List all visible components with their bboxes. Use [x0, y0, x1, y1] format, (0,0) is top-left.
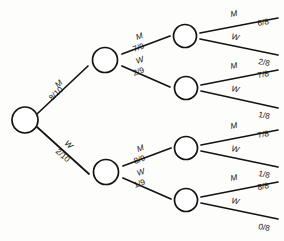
label-w-to-ww: W	[136, 166, 148, 178]
label-ww-to-wwm: M	[230, 173, 239, 183]
prob-ww-to-www: 0/8	[258, 222, 271, 233]
node-w	[94, 160, 119, 185]
label-w-to-wm: M	[136, 143, 146, 154]
label-root-to-w: W	[63, 139, 76, 152]
prob-mw-to-mwm: 7/8	[257, 69, 270, 80]
branch-w-to-ww	[123, 178, 171, 199]
branch-mw-to-mww	[201, 91, 278, 108]
label-mw-to-mwm: M	[230, 61, 239, 71]
prob-mm-to-mmw: 2/8	[258, 57, 271, 68]
branch-wm-to-wmw	[201, 151, 278, 167]
prob-ww-to-wwm: 8/8	[257, 181, 270, 192]
label-wm-to-wmw: W	[231, 144, 242, 155]
label-m-to-mw: W	[135, 54, 147, 66]
prob-w-to-wm: 8/9	[133, 153, 147, 166]
label-ww-to-www: W	[231, 196, 242, 207]
prob-mw-to-mww: 1/8	[258, 110, 271, 121]
node-mw	[175, 77, 198, 100]
node-wm	[175, 137, 198, 160]
prob-m-to-mm: 7/9	[132, 41, 146, 54]
prob-wm-to-wmm: 7/8	[257, 129, 270, 140]
label-mm-to-mmw: W	[231, 32, 242, 43]
branch-w-to-wm	[123, 148, 171, 166]
label-m-to-mm: M	[135, 31, 145, 42]
prob-mm-to-mmm: 6/8	[257, 17, 270, 28]
tree-canvas: M 8/10 W 2/10 M 7/9 W 2/9 M 8/9 W 1/9 M …	[0, 0, 284, 241]
label-wm-to-wmm: M	[230, 121, 239, 131]
branch-ww-to-www	[201, 203, 278, 219]
branch-m-to-mw	[122, 66, 170, 87]
branch-m-to-mm	[122, 36, 170, 54]
label-mw-to-mww: W	[231, 84, 242, 95]
prob-wm-to-wmw: 1/8	[258, 169, 271, 180]
branch-mm-to-mmw	[200, 39, 278, 55]
label-mm-to-mmm: M	[230, 9, 239, 19]
probability-tree-diagram: M 8/10 W 2/10 M 7/9 W 2/9 M 8/9 W 1/9 M …	[0, 0, 284, 241]
prob-root-to-m: 8/10	[47, 85, 65, 103]
node-mm	[174, 25, 197, 48]
node-m	[93, 48, 118, 73]
node-ww	[175, 189, 198, 212]
root-node	[12, 107, 38, 133]
